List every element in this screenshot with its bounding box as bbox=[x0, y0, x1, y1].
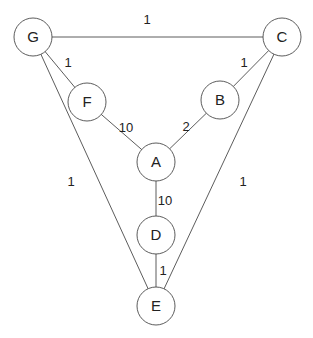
node-label: G bbox=[27, 28, 39, 45]
node-label: B bbox=[215, 91, 225, 108]
edge-g-e bbox=[33, 37, 156, 306]
node-a: A bbox=[137, 143, 175, 181]
graph-svg: 11101210111 GCFBADE bbox=[0, 0, 313, 338]
edge-weight-b-a: 2 bbox=[182, 119, 189, 134]
edge-weight-a-d: 10 bbox=[158, 193, 172, 208]
edge-weight-f-a: 10 bbox=[119, 120, 133, 135]
edge-weight-g-e: 1 bbox=[67, 174, 74, 189]
node-d: D bbox=[137, 216, 175, 254]
graph-diagram: 11101210111 GCFBADE bbox=[0, 0, 313, 338]
node-f: F bbox=[68, 83, 106, 121]
edge-weight-g-f: 1 bbox=[64, 55, 71, 70]
node-label: D bbox=[151, 226, 162, 243]
nodes-layer: GCFBADE bbox=[14, 18, 301, 325]
edge-weight-g-c: 1 bbox=[143, 12, 150, 27]
node-label: F bbox=[82, 93, 91, 110]
node-label: A bbox=[151, 153, 161, 170]
node-b: B bbox=[201, 81, 239, 119]
edge-c-e bbox=[156, 37, 282, 306]
edge-weight-c-b: 1 bbox=[240, 55, 247, 70]
edge-weight-c-e: 1 bbox=[239, 174, 246, 189]
node-c: C bbox=[263, 18, 301, 56]
node-label: E bbox=[151, 297, 161, 314]
node-e: E bbox=[137, 287, 175, 325]
edge-weight-d-e: 1 bbox=[159, 263, 166, 278]
node-g: G bbox=[14, 18, 52, 56]
node-label: C bbox=[277, 28, 288, 45]
